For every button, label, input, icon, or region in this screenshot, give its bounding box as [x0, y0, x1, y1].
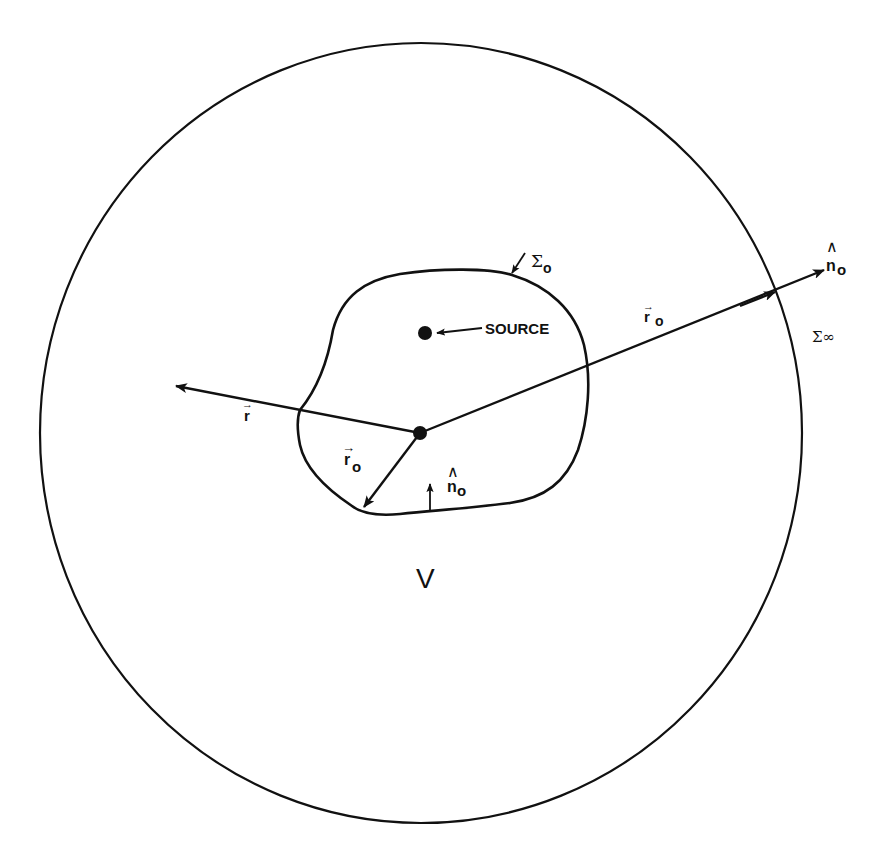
r0-outer-vector-line — [420, 270, 824, 433]
diagram: SOURCE Σ o Σ∞ V → r → r o → r o ∧ n o ∧ … — [0, 0, 887, 848]
r-subscript: o — [655, 313, 664, 329]
r0-outer-label: → r o — [643, 300, 664, 329]
n-subscript: o — [837, 261, 846, 278]
diagram-canvas: SOURCE Σ o Σ∞ V → r → r o → r o ∧ n o ∧ … — [0, 0, 887, 848]
sigma-o-pointer-arrow — [512, 253, 525, 273]
n-symbol: n — [826, 257, 836, 274]
origin-point — [413, 426, 427, 440]
r0-inner-label: → r o — [342, 440, 361, 475]
r0-outer-arrowhead — [740, 292, 775, 306]
r-symbol: r — [244, 407, 250, 424]
r-symbol: r — [644, 308, 650, 325]
sigma-o-label: Σ o — [531, 251, 552, 276]
n0-inner-label: ∧ n o — [447, 463, 466, 499]
volume-label-v: V — [416, 563, 435, 594]
sigma-subscript: o — [543, 260, 552, 276]
sigma-symbol: Σ — [531, 251, 543, 271]
r0-inner-vector-arrow — [364, 433, 420, 507]
r-subscript: o — [352, 458, 361, 475]
source-point — [418, 326, 432, 340]
r-symbol: r — [344, 451, 350, 468]
source-pointer-arrow — [437, 328, 482, 333]
n-symbol: n — [447, 478, 457, 495]
source-label: SOURCE — [485, 320, 549, 337]
inner-surface-sigma-o — [298, 270, 589, 515]
r-label: → r — [242, 398, 253, 424]
hat-symbol: ∧ — [826, 238, 838, 255]
sigma-infinity-label: Σ∞ — [812, 328, 835, 346]
n-subscript: o — [457, 482, 466, 499]
n0-outer-label: ∧ n o — [826, 238, 846, 278]
